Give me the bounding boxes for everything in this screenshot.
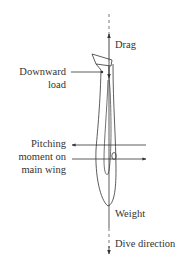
downward-load-label-line2: load — [0, 78, 66, 91]
weight-label: Weight — [115, 207, 145, 220]
dive-force-diagram: Drag Downward load Pitching moment on ma… — [0, 0, 189, 260]
drag-label: Drag — [115, 38, 136, 51]
downward-load-label-line1: Downward — [0, 65, 66, 78]
fuselage-outline — [96, 64, 116, 206]
pitching-moment-label-line1: Pitching — [0, 137, 66, 150]
dive-direction-label: Dive direction — [115, 237, 175, 250]
diagram-canvas — [0, 0, 189, 260]
downward-load-leader — [71, 71, 103, 73]
main-wing-outline — [104, 78, 111, 174]
pitching-moment-label-line2: moment on — [0, 150, 66, 163]
pitching-moment-label-line3: main wing — [0, 163, 66, 176]
